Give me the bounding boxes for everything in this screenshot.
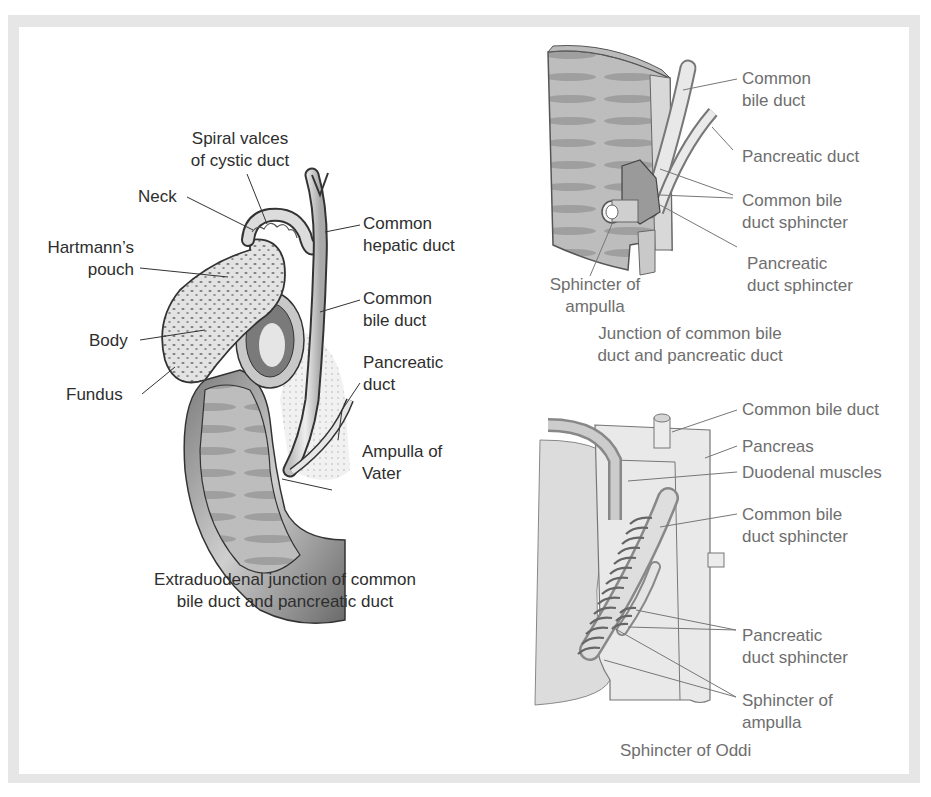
label-pancreatic-duct-tr: Pancreatic duct (742, 146, 859, 168)
label-line: ampulla (742, 712, 833, 734)
label-line: Hartmann’s (34, 237, 134, 259)
label-line: Sphincter of (530, 274, 660, 296)
label-common-bile-duct-br: Common bile duct (742, 399, 879, 421)
label-pancreas: Pancreas (742, 436, 814, 458)
label-sphincter-of-ampulla-br: Sphincter of ampulla (742, 690, 833, 734)
caption-line: bile duct and pancreatic duct (120, 591, 450, 613)
label-line: pouch (34, 259, 134, 281)
label-spiral-valves: Spiral valces of cystic duct (175, 128, 305, 172)
label-line: Pancreatic (747, 253, 853, 275)
label-line: bile duct (742, 90, 811, 112)
label-line: duct (363, 374, 443, 396)
label-line: bile duct (363, 310, 432, 332)
label-line: Common bile (742, 190, 848, 212)
label-common-bile-duct-sphincter-br: Common bile duct sphincter (742, 504, 848, 548)
label-line: Ampulla of (362, 441, 442, 463)
label-line: Common (742, 68, 811, 90)
label-line: Spiral valces (175, 128, 305, 150)
label-common-hepatic-duct: Common hepatic duct (363, 213, 455, 257)
caption-line: Junction of common bile (575, 323, 805, 345)
label-pancreatic-duct: Pancreatic duct (363, 352, 443, 396)
label-line: ampulla (530, 296, 660, 318)
label-line: duct sphincter (742, 526, 848, 548)
label-line: Common (363, 288, 432, 310)
label-line: of cystic duct (175, 150, 305, 172)
label-line: duct sphincter (747, 275, 853, 297)
bottom-right-figure-drawing (535, 410, 737, 705)
label-line: Pancreatic (363, 352, 443, 374)
label-common-bile-duct: Common bile duct (363, 288, 432, 332)
label-body: Body (89, 330, 128, 352)
label-line: Common bile (742, 504, 848, 526)
label-common-bile-duct-sphincter-tr: Common bile duct sphincter (742, 190, 848, 234)
label-pancreatic-duct-sphincter-tr: Pancreatic duct sphincter (747, 253, 853, 297)
label-line: Sphincter of (742, 690, 833, 712)
label-line: duct sphincter (742, 647, 848, 669)
label-line: Pancreatic (742, 625, 848, 647)
caption-junction-cbd-pd: Junction of common bile duct and pancrea… (575, 323, 805, 367)
label-neck: Neck (138, 186, 177, 208)
label-common-bile-duct-tr: Common bile duct (742, 68, 811, 112)
left-figure-drawing (140, 173, 360, 623)
label-line: Vater (362, 463, 442, 485)
label-sphincter-of-ampulla-tr: Sphincter of ampulla (530, 274, 660, 318)
label-line: duct sphincter (742, 212, 848, 234)
label-line: Common (363, 213, 455, 235)
caption-sphincter-of-oddi: Sphincter of Oddi (620, 740, 751, 762)
caption-extraduodenal-junction: Extraduodenal junction of common bile du… (120, 569, 450, 613)
top-right-figure-drawing (548, 46, 737, 277)
caption-line: duct and pancreatic duct (575, 345, 805, 367)
label-hartmanns-pouch: Hartmann’s pouch (34, 237, 134, 281)
label-pancreatic-duct-sphincter-br: Pancreatic duct sphincter (742, 625, 848, 669)
label-duodenal-muscles: Duodenal muscles (742, 462, 882, 484)
label-ampulla-of-vater: Ampulla of Vater (362, 441, 442, 485)
label-line: hepatic duct (363, 235, 455, 257)
caption-line: Extraduodenal junction of common (120, 569, 450, 591)
label-fundus: Fundus (66, 384, 123, 406)
